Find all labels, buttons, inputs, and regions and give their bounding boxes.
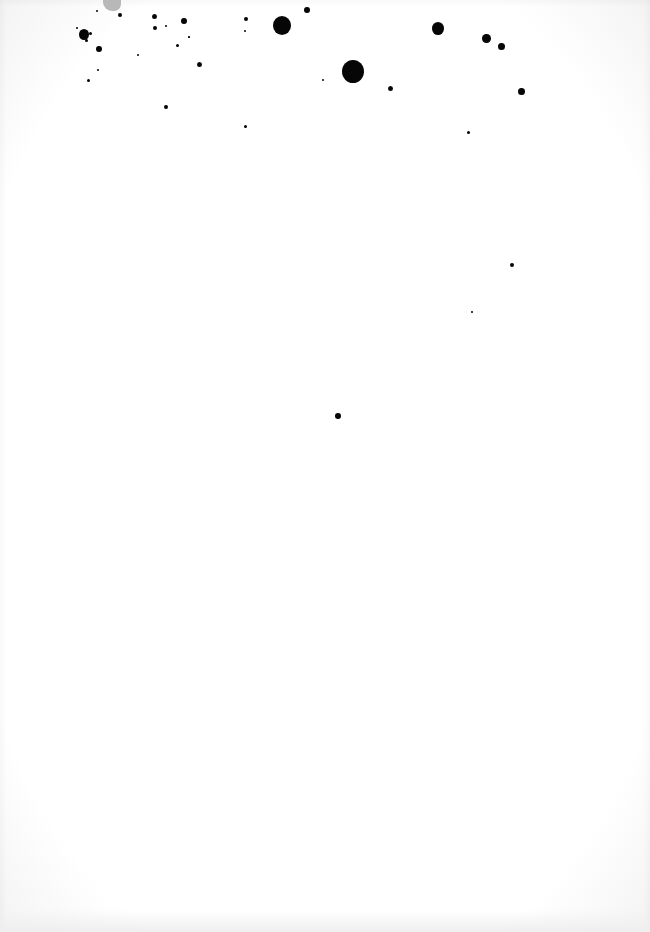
ink-spot xyxy=(482,34,491,43)
page-bottom-edge xyxy=(0,910,650,932)
ink-spot xyxy=(432,22,444,35)
ink-spot xyxy=(388,86,393,91)
ink-spot xyxy=(322,79,324,82)
scanned-page xyxy=(0,0,650,932)
ink-spot xyxy=(188,36,190,38)
ink-spot xyxy=(342,60,364,83)
ink-spot xyxy=(165,25,167,28)
ink-spot xyxy=(89,32,92,35)
ink-spot xyxy=(76,27,78,29)
ink-spot xyxy=(510,263,514,268)
ink-spot xyxy=(97,69,99,72)
ink-spot xyxy=(79,29,89,40)
ink-spot xyxy=(197,62,202,67)
ink-spot xyxy=(181,18,187,24)
ink-spot xyxy=(96,46,102,52)
ink-spot xyxy=(164,105,168,109)
ink-spot xyxy=(96,10,98,12)
ink-spot xyxy=(137,54,139,56)
ink-spot xyxy=(273,16,291,35)
ink-spot xyxy=(335,413,341,419)
ink-spot xyxy=(152,14,157,19)
ink-spot xyxy=(304,7,310,13)
gray-smudge xyxy=(103,0,121,11)
ink-spot xyxy=(244,17,248,21)
ink-spot xyxy=(518,88,525,95)
ink-spot xyxy=(244,30,246,33)
ink-spot xyxy=(498,43,505,50)
ink-spot xyxy=(87,79,90,82)
ink-spot xyxy=(85,39,88,42)
ink-spot xyxy=(176,44,179,47)
ink-spot xyxy=(244,125,247,128)
ink-spot xyxy=(153,26,157,30)
ink-spot xyxy=(118,13,122,17)
ink-spot xyxy=(471,311,473,314)
ink-spot xyxy=(467,131,470,134)
